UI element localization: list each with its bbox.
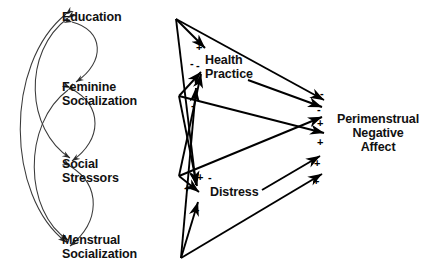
corr-edu-feminine-arc [72, 22, 97, 82]
node-health-practice: Health Practice [205, 53, 253, 81]
sign-out-5: + [314, 158, 320, 169]
node-health-practice-line2: Practice [205, 67, 253, 81]
node-education-label: Education [62, 10, 122, 24]
sign-distress-in-a: + [197, 172, 203, 183]
sign-edu-hp: + [196, 42, 202, 53]
node-feminine-socialization: Feminine Socialization [62, 80, 137, 108]
correlation-arcs [20, 14, 97, 246]
node-menstrual-socialization-line2: Socialization [62, 247, 137, 261]
node-distress: Distress [210, 185, 259, 199]
node-perimenstrual-negative-affect: Perimenstrual Negative Affect [337, 112, 419, 154]
sign-out-3: + [317, 118, 323, 129]
node-social-stressors: Social Stressors [62, 157, 119, 185]
sign-out-2: - [317, 104, 321, 115]
path-diagram-figure: Education Feminine Socialization Social … [0, 0, 432, 274]
node-feminine-socialization-line2: Socialization [62, 94, 137, 108]
node-social-stressors-line1: Social [62, 157, 119, 171]
sign-soc-hp: - [191, 100, 195, 111]
node-feminine-socialization-line1: Feminine [62, 80, 137, 94]
node-pna-line2: Negative [337, 126, 419, 140]
sign-distress-in-b: - [208, 172, 212, 183]
node-education: Education [62, 10, 122, 24]
sign-out-1: - [320, 88, 324, 99]
sign-edu-distress: - [190, 58, 194, 69]
sign-distress-in-c: + [184, 183, 190, 194]
sign-out-6: + [313, 176, 319, 187]
node-social-stressors-line2: Stressors [62, 171, 119, 185]
sign-mens-distress: + [193, 205, 199, 216]
node-menstrual-socialization: Menstrual Socialization [62, 233, 137, 261]
node-pna-line1: Perimenstrual [337, 112, 419, 126]
sign-out-4: + [317, 137, 323, 148]
node-distress-label: Distress [210, 185, 259, 199]
node-pna-line3: Affect [337, 140, 419, 154]
node-health-practice-line1: Health [205, 53, 253, 67]
path-distress-pna-line [262, 156, 320, 190]
path-fem-pna-line [179, 96, 324, 133]
node-menstrual-socialization-line1: Menstrual [62, 233, 137, 247]
sign-fem-hp: - [196, 60, 200, 71]
